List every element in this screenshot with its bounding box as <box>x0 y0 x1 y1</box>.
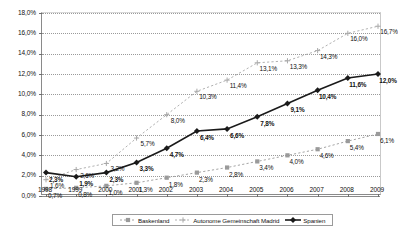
data-point-label: 5,4% <box>350 144 364 151</box>
data-point-label: 11,6% <box>349 81 366 88</box>
data-point-marker <box>134 135 139 140</box>
data-point-label: 1,6% <box>50 181 64 188</box>
plot-area <box>41 12 381 195</box>
data-point-label: 2,3% <box>199 175 213 182</box>
data-point-marker <box>225 165 229 169</box>
x-tick-mark <box>76 194 77 197</box>
caption-strip <box>0 231 397 237</box>
data-point-marker <box>134 181 138 185</box>
data-point-label: 0,8% <box>78 190 92 197</box>
y-axis-tick-label: 12,0% <box>0 70 36 77</box>
data-point-label: 1,3% <box>139 185 153 192</box>
y-axis-tick-label: 6,0% <box>0 131 36 138</box>
data-point-label: 2,3% <box>109 175 123 182</box>
legend-item-label: Spanien <box>303 217 325 224</box>
data-point-marker <box>195 171 199 175</box>
y-axis-tick-label: 8,0% <box>0 110 36 117</box>
data-point-marker <box>74 167 79 172</box>
legend-item-0[interactable]: Baskenland <box>120 216 169 224</box>
x-axis-tick-label: 2009 <box>357 186 397 193</box>
x-tick-mark <box>197 194 198 197</box>
legend-marker-icon <box>120 216 136 224</box>
x-tick-mark <box>318 194 319 197</box>
data-point-marker <box>255 159 259 163</box>
y-axis-tick-label: 14,0% <box>0 49 36 56</box>
x-tick-mark <box>287 194 288 197</box>
data-point-label: 3,2% <box>110 165 124 172</box>
data-point-label: 2,6% <box>80 171 94 178</box>
data-point-label: 14,3% <box>320 52 337 59</box>
chart-legend: BaskenlandAutonome Gemeinschaft MadridSp… <box>112 214 333 226</box>
data-point-marker <box>376 132 380 136</box>
x-tick-mark <box>227 194 228 197</box>
y-axis-tick-label: 10,0% <box>0 90 36 97</box>
legend-item-2[interactable]: Spanien <box>285 216 325 224</box>
data-point-label: 16,7% <box>380 28 397 35</box>
data-point-label: 8,0% <box>171 116 185 123</box>
data-point-label: 12,0% <box>379 77 396 84</box>
data-point-label: 6,6% <box>230 131 244 138</box>
y-axis-tick-label: 4,0% <box>0 151 36 158</box>
legend-item-label: Baskenland <box>138 217 169 224</box>
data-point-marker <box>285 153 289 157</box>
gridline <box>42 196 380 197</box>
y-axis-tick-label: 18,0% <box>0 9 36 16</box>
data-point-label: 11,4% <box>230 82 247 89</box>
legend-item-1[interactable]: Autonome Gemeinschaft Madrid <box>175 216 279 224</box>
data-point-label: 10,3% <box>199 93 216 100</box>
data-point-marker <box>43 177 48 182</box>
x-tick-mark <box>137 194 138 197</box>
x-tick-mark <box>106 194 107 197</box>
legend-marker-icon <box>175 216 191 224</box>
data-point-marker <box>346 139 350 143</box>
x-tick-mark <box>378 194 379 197</box>
data-point-label: 1,0% <box>108 188 122 195</box>
series-line-spanien <box>46 74 378 177</box>
data-point-label: 1,9% <box>79 179 93 186</box>
data-point-label: 5,7% <box>141 140 155 147</box>
y-axis-tick-label: 16,0% <box>0 29 36 36</box>
data-point-label: 16,0% <box>350 35 367 42</box>
x-tick-mark <box>46 194 47 197</box>
data-point-label: 3,3% <box>140 165 154 172</box>
data-point-label: 6,4% <box>200 133 214 140</box>
data-point-label: 10,4% <box>319 93 336 100</box>
data-point-label: 2,3% <box>49 175 63 182</box>
data-point-label: 4,7% <box>170 151 184 158</box>
series-layer <box>42 13 382 196</box>
data-point-label: 6,1% <box>380 136 394 143</box>
legend-item-label: Autonome Gemeinschaft Madrid <box>193 217 279 224</box>
data-point-label: 13,1% <box>260 64 277 71</box>
y-axis-tick-label: 2,0% <box>0 171 36 178</box>
x-tick-mark <box>348 194 349 197</box>
data-point-label: 2,8% <box>229 170 243 177</box>
data-point-marker <box>104 161 109 166</box>
data-point-label: 9,1% <box>290 106 304 113</box>
data-point-marker <box>316 147 320 151</box>
data-point-label: 13,3% <box>290 62 307 69</box>
data-point-label: 4,0% <box>289 158 303 165</box>
data-point-label: 7,8% <box>260 119 274 126</box>
data-point-marker <box>165 176 169 180</box>
data-point-label: 1,8% <box>169 180 183 187</box>
data-point-label: 4,6% <box>320 152 334 159</box>
x-tick-mark <box>167 194 168 197</box>
legend-marker-icon <box>285 216 301 224</box>
y-tick-mark <box>39 196 42 197</box>
data-point-label: 0,7% <box>48 191 62 198</box>
data-point-label: 3,4% <box>259 164 273 171</box>
x-tick-mark <box>257 194 258 197</box>
